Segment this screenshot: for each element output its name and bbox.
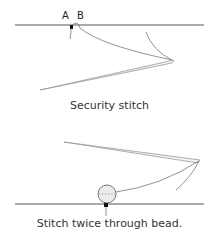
- thread: [116, 161, 199, 192]
- knot-marker: [104, 203, 108, 207]
- security-stitch-caption: Security stitch: [0, 99, 219, 112]
- needle: [40, 60, 174, 90]
- bead: [98, 185, 116, 203]
- thread-tail: [70, 28, 71, 39]
- needle: [64, 142, 200, 163]
- security-stitch-figure: [15, 23, 204, 90]
- thread-loop: [146, 32, 172, 60]
- thread: [72, 23, 172, 60]
- thread-loop: [176, 161, 199, 190]
- bead-stitch-caption: Stitch twice through bead.: [0, 217, 219, 230]
- point-b-label: B: [77, 10, 84, 21]
- diagram-canvas: [0, 0, 219, 234]
- knot-marker: [70, 25, 73, 29]
- bead-stitch-figure: [15, 142, 204, 216]
- point-a-label: A: [62, 10, 69, 21]
